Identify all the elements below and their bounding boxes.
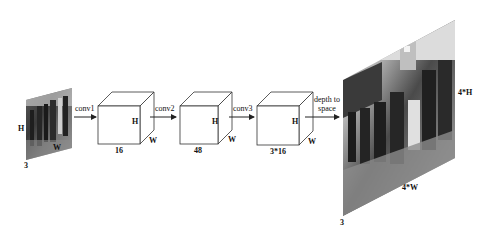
block2-height-label: H	[212, 118, 218, 126]
depth-to-space-label-line2: space	[310, 105, 344, 113]
input-image	[26, 88, 72, 162]
block3-channels-label: 3*16	[270, 148, 286, 156]
block2-width-label: W	[228, 136, 236, 144]
block1-width-label: W	[149, 137, 157, 145]
block1-height-label: H	[132, 118, 138, 126]
feature-block-3	[257, 92, 313, 145]
output-width-label: 4*W	[402, 184, 418, 192]
network-diagram: H W 3 conv1 H W 16 conv2 H W 48 conv3 H …	[0, 0, 490, 240]
output-height-label: 4*H	[458, 89, 472, 97]
diagram-canvas	[0, 0, 490, 240]
conv3-label: conv3	[233, 105, 253, 113]
conv1-label: conv1	[75, 105, 95, 113]
block3-width-label: W	[308, 138, 316, 146]
conv2-label: conv2	[155, 105, 175, 113]
input-channels-label: 3	[24, 162, 28, 170]
feature-block-2	[180, 92, 232, 144]
output-image	[343, 20, 455, 216]
block3-height-label: H	[292, 118, 298, 126]
input-height-label: H	[18, 125, 24, 133]
input-width-label: W	[53, 144, 61, 152]
block1-channels-label: 16	[115, 147, 123, 155]
depth-to-space-label-line1: depth to	[310, 96, 344, 104]
output-channels-label: 3	[340, 219, 344, 227]
block2-channels-label: 48	[194, 147, 202, 155]
feature-block-1	[98, 92, 154, 144]
